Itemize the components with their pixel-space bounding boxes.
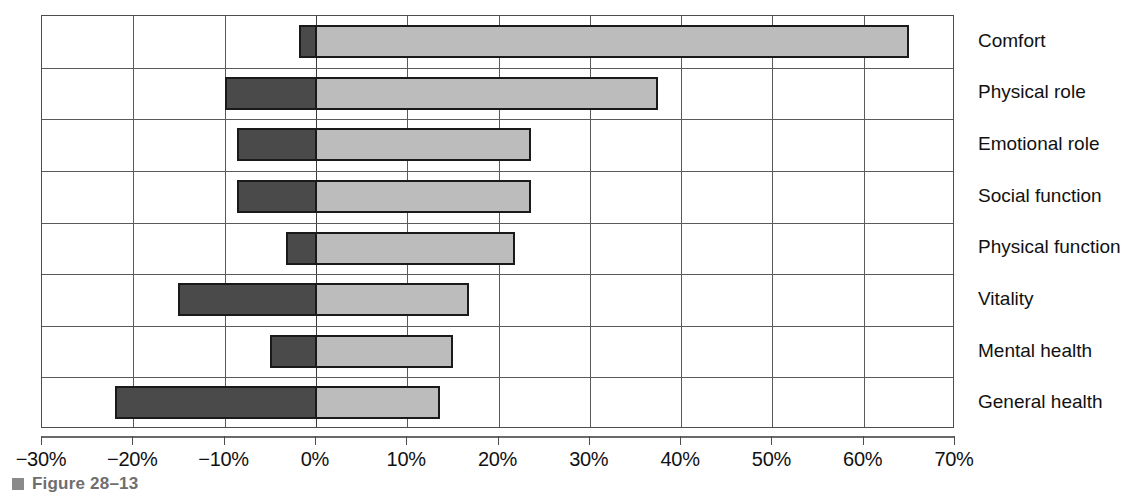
bar-group [42, 377, 953, 429]
bar-segment-positive [316, 180, 531, 213]
x-axis-tick-label: 60% [843, 448, 882, 471]
category-label: Physical role [978, 81, 1086, 103]
x-axis-tick-label: −20% [107, 448, 158, 471]
bar-group [42, 326, 953, 378]
x-axis-tick-label: 30% [569, 448, 608, 471]
chart-plot-area [41, 15, 954, 428]
bar-segment-positive [316, 25, 909, 58]
x-axis-tick-mark [771, 436, 772, 445]
x-axis-tick-label: −10% [198, 448, 249, 471]
x-axis-tick-mark [315, 436, 316, 445]
x-axis-tick-mark [680, 436, 681, 445]
category-label: Comfort [978, 30, 1046, 52]
x-axis-tick-mark [954, 436, 955, 445]
bar-segment-positive [316, 386, 440, 419]
x-axis-tick-label: 0% [301, 448, 329, 471]
bar-group [42, 223, 953, 275]
x-axis-tick-mark [498, 436, 499, 445]
x-axis-tick-label: 40% [661, 448, 700, 471]
x-axis-tick-label: 10% [387, 448, 426, 471]
x-axis-tick-label: 50% [752, 448, 791, 471]
bar-segment-positive [316, 128, 531, 161]
x-axis-tick-label: −30% [16, 448, 67, 471]
bar-group [42, 16, 953, 68]
square-bullet-icon [12, 478, 24, 490]
bar-segment-negative [237, 128, 316, 161]
bar-group [42, 274, 953, 326]
bar-segment-negative [286, 232, 316, 265]
bar-segment-negative [115, 386, 316, 419]
bar-group [42, 68, 953, 120]
category-label: Mental health [978, 340, 1092, 362]
figure-caption: Figure 28–13 [12, 474, 138, 494]
x-axis-tick-mark [41, 436, 42, 445]
bar-segment-positive [316, 232, 515, 265]
category-label: Social function [978, 185, 1102, 207]
x-axis-tick-mark [863, 436, 864, 445]
category-label: General health [978, 391, 1103, 413]
category-label: Vitality [978, 288, 1034, 310]
bar-segment-positive [316, 77, 658, 110]
category-label: Emotional role [978, 133, 1099, 155]
x-axis-tick-mark [132, 436, 133, 445]
bar-segment-positive [316, 283, 469, 316]
bar-segment-positive [316, 335, 453, 368]
bar-group [42, 119, 953, 171]
figure-caption-text: Figure 28–13 [32, 474, 138, 494]
x-axis-tick-mark [406, 436, 407, 445]
x-axis-tick-mark [224, 436, 225, 445]
bar-segment-negative [225, 77, 316, 110]
bar-segment-negative [178, 283, 316, 316]
bar-segment-negative [270, 335, 316, 368]
x-axis-tick-label: 70% [934, 448, 973, 471]
x-axis-tick-label: 20% [478, 448, 517, 471]
figure-container: −30%−20%−10%0%10%20%30%40%50%60%70% Comf… [0, 0, 1148, 501]
x-axis-tick-mark [589, 436, 590, 445]
bar-segment-negative [237, 180, 316, 213]
category-label: Physical function [978, 236, 1121, 258]
bar-group [42, 171, 953, 223]
bar-segment-negative [299, 25, 315, 58]
